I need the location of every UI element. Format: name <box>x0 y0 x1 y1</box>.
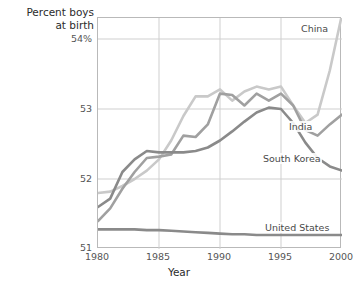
x-tick-label-1990: 1990 <box>196 251 242 262</box>
series-label-united-states: United States <box>264 222 330 233</box>
plot-area <box>97 17 341 248</box>
x-tick-label-2000: 2000 <box>318 251 358 262</box>
series-label-china: China <box>300 23 329 34</box>
x-tick-label-1995: 1995 <box>257 251 303 262</box>
series-label-south-korea: South Korea <box>262 153 322 164</box>
y-tick-label-53: 53 <box>50 103 92 114</box>
y-tick-label-52: 52 <box>50 173 92 184</box>
series-label-india: India <box>288 121 313 132</box>
x-axis-title: Year <box>0 266 358 278</box>
y-axis-title-line1: Percent boys <box>26 6 94 18</box>
y-axis-title: Percent boys at birth <box>2 6 94 32</box>
gridlines <box>98 18 342 249</box>
line-chart: Percent boys at birth 54% 53 52 51 1980 … <box>0 0 358 289</box>
y-axis-title-line2: at birth <box>55 19 94 31</box>
plot-svg <box>98 18 342 249</box>
x-tick-label-1985: 1985 <box>135 251 181 262</box>
y-tick-label-54: 54% <box>50 33 92 44</box>
x-tick-label-1980: 1980 <box>74 251 120 262</box>
